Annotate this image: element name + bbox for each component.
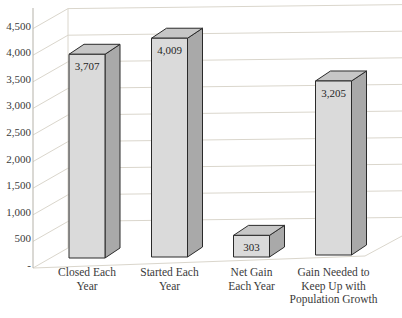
bar-net-gain-each-year: 303 xyxy=(234,225,285,257)
y-tick-label: - xyxy=(27,259,31,271)
y-tick-label: 1,000 xyxy=(6,206,31,218)
bar-value-label: 4,009 xyxy=(157,44,182,56)
3d-bar-chart-figure: -5001,0001,5002,0002,5003,0003,5004,0004… xyxy=(0,0,402,318)
bar-value-label: 3,205 xyxy=(321,87,346,99)
y-tick-label: 4,000 xyxy=(6,46,31,58)
bar-side-face xyxy=(188,28,203,257)
3d-bar-chart: -5001,0001,5002,0002,5003,0003,5004,0004… xyxy=(0,0,402,318)
category-label: Gain Needed toKeep Up withPopulation Gro… xyxy=(290,266,378,306)
y-tick-label: 2,000 xyxy=(6,153,31,165)
bar-side-face xyxy=(352,71,367,255)
bar-started-each-year: 4,009 xyxy=(152,28,203,257)
bar-front-face xyxy=(316,81,352,255)
bar-side-face xyxy=(105,44,120,258)
bar-closed-each-year: 3,707 xyxy=(69,44,120,258)
y-tick-label: 3,000 xyxy=(6,99,31,111)
y-tick-label: 2,500 xyxy=(6,126,31,138)
bar-front-face xyxy=(152,38,188,257)
y-tick-label: 3,500 xyxy=(6,73,31,85)
y-tick-label: 1,500 xyxy=(6,179,31,191)
bar-front-face xyxy=(69,54,105,258)
bar-value-label: 303 xyxy=(243,241,260,253)
y-tick-label: 500 xyxy=(15,232,32,244)
bar-value-label: 3,707 xyxy=(75,60,100,72)
category-label: Net GainEach Year xyxy=(228,266,275,292)
y-tick-label: 4,500 xyxy=(6,20,31,32)
bar-gain-needed-to-keep-up-with-population-growth: 3,205 xyxy=(316,71,367,255)
